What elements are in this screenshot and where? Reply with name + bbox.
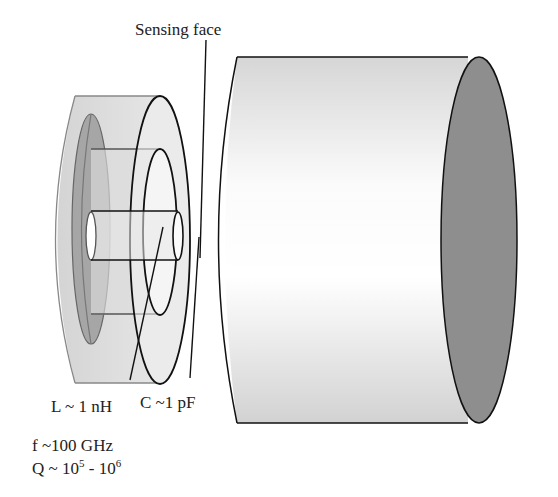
- capacitance-leader: [190, 237, 199, 378]
- capacitance-label: C ~1 pF: [140, 394, 196, 411]
- sensing-face-leader: [200, 40, 206, 258]
- target-cylinder: [219, 57, 518, 423]
- resonator-diagram: Sensing face L ~ 1 nH C ~1 pF f ~100 GHz…: [0, 0, 558, 497]
- q-mid: - 10: [84, 459, 115, 478]
- q-prefix: Q ~ 10: [32, 459, 79, 478]
- q-exponent-2: 6: [116, 457, 122, 469]
- sensing-face-label: Sensing face: [135, 21, 221, 38]
- frequency-label: f ~100 GHz: [32, 437, 113, 454]
- resonator-drawing: [0, 0, 558, 497]
- inductance-label: L ~ 1 nH: [51, 398, 112, 415]
- center-post: [86, 211, 183, 260]
- target-end-face: [441, 57, 517, 423]
- quality-factor-label: Q ~ 105 - 106: [32, 460, 121, 477]
